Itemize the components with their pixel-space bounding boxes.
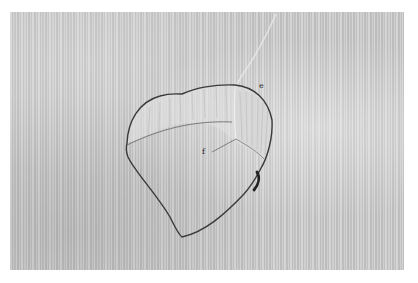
- specimen-drawing: [10, 12, 404, 270]
- label-f: f: [202, 148, 205, 156]
- label-e: e: [259, 82, 264, 90]
- specimen-photo: e f: [10, 12, 404, 270]
- dark-mark: [254, 172, 259, 190]
- figure-frame: e f: [0, 0, 418, 283]
- label-f-pointer: [212, 139, 236, 152]
- stalk-line: [235, 14, 276, 89]
